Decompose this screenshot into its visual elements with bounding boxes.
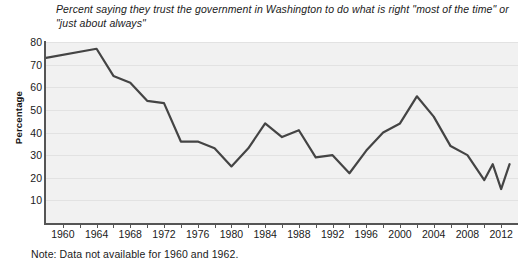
chart-title: Percent saying they trust the government… xyxy=(56,3,518,30)
x-tick-mark xyxy=(181,224,182,228)
y-tick-label: 40 xyxy=(18,127,42,139)
x-tick-mark xyxy=(113,224,114,228)
y-tick-label: 10 xyxy=(18,194,42,206)
x-tick-mark xyxy=(316,224,317,228)
x-tick-label: 1992 xyxy=(321,228,344,240)
x-tick-label: 2004 xyxy=(422,228,445,240)
x-tick-label: 1988 xyxy=(287,228,310,240)
x-tick-mark xyxy=(248,224,249,228)
x-tick-mark xyxy=(349,224,350,228)
x-tick-label: 1980 xyxy=(220,228,243,240)
y-tick-label: 50 xyxy=(18,104,42,116)
x-tick-label: 1996 xyxy=(355,228,378,240)
y-tick-label: 20 xyxy=(18,172,42,184)
line-series xyxy=(46,42,518,223)
x-tick-mark xyxy=(80,224,81,228)
y-tick-label: 30 xyxy=(18,149,42,161)
y-tick-label: 80 xyxy=(18,36,42,48)
chart-note: Note: Data not available for 1960 and 19… xyxy=(31,248,238,260)
x-tick-mark xyxy=(451,224,452,228)
x-tick-label: 1984 xyxy=(253,228,276,240)
y-tick-label: 60 xyxy=(18,81,42,93)
x-tick-label: 2000 xyxy=(388,228,411,240)
y-axis-ticks: 1020304050607080 xyxy=(14,42,42,223)
x-tick-mark xyxy=(147,224,148,228)
x-tick-mark xyxy=(484,224,485,228)
y-axis-line xyxy=(44,41,46,225)
x-tick-label: 1972 xyxy=(152,228,175,240)
x-tick-label: 1960 xyxy=(51,228,74,240)
x-tick-mark xyxy=(417,224,418,228)
x-tick-label: 1964 xyxy=(85,228,108,240)
x-tick-label: 2012 xyxy=(489,228,512,240)
x-tick-mark xyxy=(383,224,384,228)
chart-figure: Percent saying they trust the government… xyxy=(0,0,528,266)
x-tick-mark xyxy=(282,224,283,228)
x-tick-label: 2008 xyxy=(456,228,479,240)
x-tick-label: 1968 xyxy=(119,228,142,240)
x-axis-line xyxy=(44,223,518,225)
plot-area xyxy=(46,42,518,223)
x-tick-mark xyxy=(215,224,216,228)
series-line xyxy=(46,49,510,189)
x-tick-label: 1976 xyxy=(186,228,209,240)
y-tick-label: 70 xyxy=(18,59,42,71)
